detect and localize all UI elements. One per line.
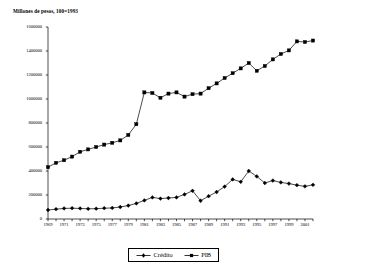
x-axis-tick-label: 1989 — [204, 223, 213, 228]
x-axis-tick-label: 1983 — [156, 223, 165, 228]
series-group — [46, 39, 315, 212]
x-axis-tick-label: 1975 — [92, 223, 101, 228]
legend-item: Crédito — [136, 252, 173, 259]
y-axis-tick-label: 1000000 — [26, 97, 42, 102]
chart-legend: CréditoPIB — [128, 248, 219, 262]
x-axis-tick-label: 1971 — [60, 223, 69, 228]
x-axis-tick-label: 1991 — [220, 223, 229, 228]
x-axis-tick-label: 1981 — [140, 223, 149, 228]
x-axis-tick-label: 1997 — [268, 223, 277, 228]
x-axis-tick-label: 1993 — [236, 223, 245, 228]
y-axis-tick-label: 1400000 — [26, 49, 42, 54]
x-axis-tick-label: 1973 — [76, 223, 85, 228]
x-axis-tick-label: 1969 — [44, 223, 53, 228]
x-axis-tick-label: 1979 — [124, 223, 133, 228]
x-axis-tick-label: 1995 — [252, 223, 261, 228]
x-axis-tick-label: 1999 — [284, 223, 293, 228]
legend-item-label: PIB — [201, 252, 211, 258]
y-axis-tick-label: 1600000 — [26, 25, 42, 30]
y-axis-tick-label: 200000 — [29, 193, 42, 198]
y-axis-tick-label: 400000 — [29, 169, 42, 174]
legend-square-marker-icon — [184, 252, 199, 259]
legend-item-label: Crédito — [154, 252, 173, 258]
x-axis-tick-labels: 1969197119731975197719791981198319851987… — [48, 223, 313, 235]
y-axis-tick-label: 800000 — [29, 121, 42, 126]
x-axis-tick-label: 2001 — [300, 223, 309, 228]
y-axis-tick-label: 0 — [40, 217, 42, 222]
chart-figure: Millones de pesos, 100=1993 020000040000… — [0, 0, 368, 274]
y-axis-tick-label: 1200000 — [26, 73, 42, 78]
legend-item: PIB — [184, 252, 211, 259]
x-axis-tick-label: 1985 — [172, 223, 181, 228]
x-axis-tick-label: 1977 — [108, 223, 117, 228]
legend-diamond-marker-icon — [136, 252, 151, 259]
y-axis-tick-labels: 0200000400000600000800000100000012000001… — [0, 27, 45, 219]
axes-group — [46, 27, 313, 221]
y-axis-tick-label: 600000 — [29, 145, 42, 150]
x-axis-tick-label: 1987 — [188, 223, 197, 228]
